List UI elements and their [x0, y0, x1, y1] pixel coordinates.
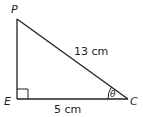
right-angle-marker	[17, 89, 28, 99]
base-label: 5 cm	[54, 103, 81, 116]
vertex-label-E: E	[4, 95, 11, 108]
vertex-label-C: C	[130, 95, 138, 108]
hypotenuse-label: 13 cm	[74, 45, 108, 58]
triangle-diagram: P E C 13 cm 5 cm θ	[0, 0, 143, 117]
angle-label-theta: θ	[110, 89, 116, 99]
vertex-label-P: P	[11, 3, 18, 16]
